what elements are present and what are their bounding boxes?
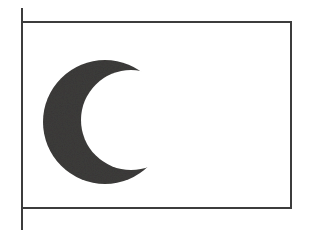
flag-drawing-canvas bbox=[0, 0, 315, 237]
crescent-moon-emblem bbox=[0, 0, 315, 237]
crescent-moon-icon bbox=[0, 0, 315, 237]
flag-illustration: Crescent Moon Flag crescent moon bbox=[0, 0, 315, 237]
